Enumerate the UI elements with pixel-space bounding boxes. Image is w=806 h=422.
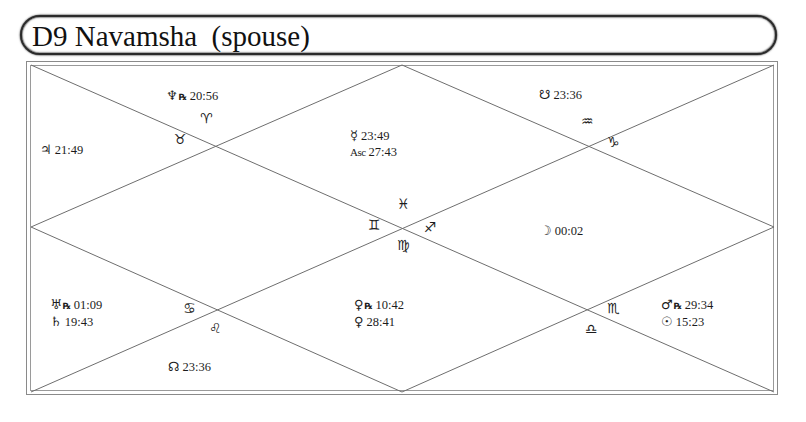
ketu-icon: ☋ [539, 87, 551, 102]
uranus-icon: ♅ [50, 297, 62, 312]
planet-ascendant: Asc27:43 [350, 144, 397, 160]
planet-venus-retro: ♀℞10:42 [354, 297, 404, 314]
jupiter-icon: ♃ [40, 142, 52, 157]
planet-sun: ☉15:23 [661, 314, 713, 330]
venus-retro-degree: 10:42 [376, 298, 404, 312]
sign-pisces-icon: ♓ [397, 196, 410, 212]
sign-cancer-icon: ♋ [183, 300, 196, 316]
rahu-icon: ☊ [168, 359, 180, 374]
planet-venus: ♀28:41 [354, 314, 404, 330]
uranus-degree: 01:09 [74, 298, 102, 312]
rahu-degree: 23:36 [183, 360, 211, 374]
sign-leo-icon: ♌ [209, 320, 222, 336]
planet-mercury: ☿23:49 [350, 128, 397, 144]
sign-libra-icon: ♎ [585, 321, 598, 337]
jupiter-degree: 21:49 [55, 143, 83, 157]
planet-rahu: ☊23:36 [168, 359, 211, 375]
sign-aries-icon: ♈ [200, 110, 213, 126]
planet-ketu: ☋23:36 [539, 87, 582, 103]
planet-saturn: ♄19:43 [50, 314, 102, 330]
neptune-icon: ♆ [166, 88, 178, 103]
sign-capricorn-icon: ♑ [607, 134, 620, 150]
planet-neptune: ♆℞20:56 [166, 88, 218, 105]
retrograde-icon: ℞ [365, 301, 373, 311]
retrograde-icon: ℞ [63, 301, 71, 311]
mercury-icon: ☿ [350, 128, 358, 143]
house-1-planets: ☿23:49 Asc27:43 [350, 128, 397, 160]
house-7-planets: ♀℞10:42 ♀28:41 [354, 297, 404, 330]
ascendant-label: Asc [350, 146, 366, 158]
planet-jupiter: ♃21:49 [40, 142, 83, 158]
planet-uranus: ♅℞01:09 [50, 297, 102, 314]
mars-icon: ♂ [661, 297, 673, 312]
moon-degree: 00:02 [555, 224, 583, 238]
sign-aquarius-icon: ♒ [581, 113, 594, 129]
mercury-degree: 23:49 [361, 129, 389, 143]
venus-degree: 28:41 [367, 315, 395, 329]
venus-icon: ♀ [354, 314, 364, 329]
saturn-icon: ♄ [50, 314, 62, 329]
house-5-planets: ♅℞01:09 ♄19:43 [50, 297, 102, 330]
sign-sagittarius-icon: ♐ [424, 219, 437, 235]
saturn-degree: 19:43 [65, 315, 93, 329]
sun-degree: 15:23 [676, 315, 704, 329]
sign-virgo-icon: ♍ [397, 237, 410, 253]
retrograde-icon: ℞ [674, 301, 682, 311]
ketu-degree: 23:36 [554, 88, 582, 102]
venus-icon: ♀ [354, 297, 364, 312]
house-9-planets: ♂℞29:34 ☉15:23 [661, 297, 713, 330]
sign-gemini-icon: ♊ [368, 217, 381, 233]
sign-scorpio-icon: ♏ [607, 300, 620, 316]
sun-icon: ☉ [661, 314, 673, 329]
planet-mars: ♂℞29:34 [661, 297, 713, 314]
ascendant-degree: 27:43 [369, 145, 397, 159]
moon-icon: ☽ [540, 223, 552, 238]
sign-taurus-icon: ♉ [174, 131, 187, 147]
planet-moon: ☽00:02 [540, 223, 583, 239]
neptune-degree: 20:56 [190, 89, 218, 103]
mars-degree: 29:34 [685, 298, 713, 312]
retrograde-icon: ℞ [179, 92, 187, 102]
